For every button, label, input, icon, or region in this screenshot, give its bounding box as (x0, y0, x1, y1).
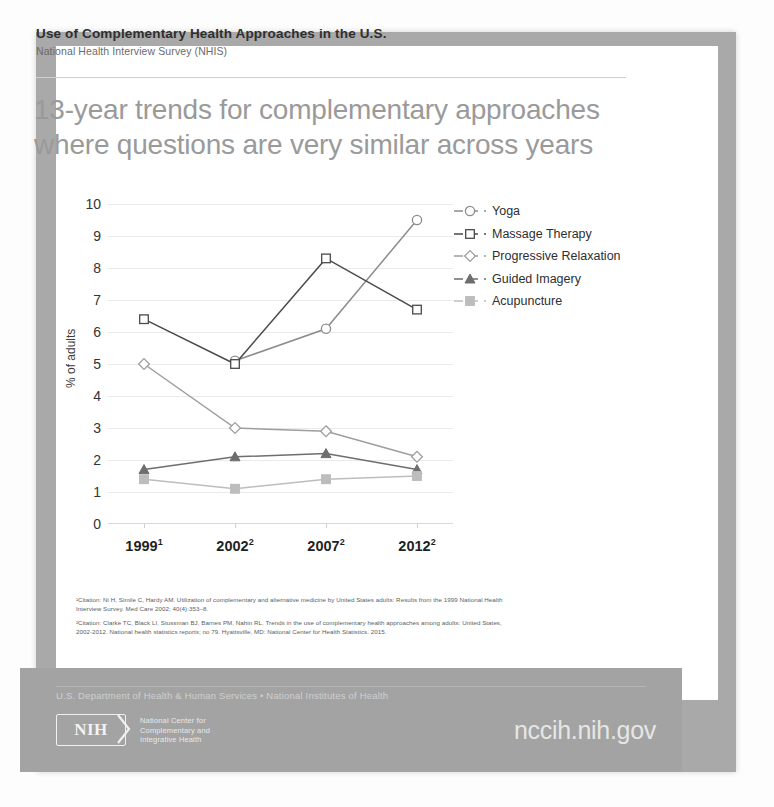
series-layer (108, 204, 453, 524)
footnote-1: ¹Citation: Ni H, Simile C, Hardy AM. Uti… (76, 596, 516, 613)
footer-divider (56, 686, 646, 687)
data-point-marker (231, 485, 240, 494)
legend-symbol-icon (452, 204, 492, 218)
chart-legend: YogaMassage TherapyProgressive Relaxatio… (452, 200, 662, 313)
data-point-marker (413, 305, 422, 314)
y-axis-tick-label: 7 (93, 293, 101, 307)
y-axis-tick-label: 4 (93, 389, 101, 403)
x-axis-tickmark (144, 524, 145, 528)
y-axis-tick-label: 5 (93, 357, 101, 371)
y-axis-tick-label: 1 (93, 485, 101, 499)
series-line (144, 364, 417, 457)
header-divider (36, 77, 626, 78)
legend-symbol-icon (452, 272, 492, 286)
y-axis-tick-label: 6 (93, 325, 101, 339)
y-axis-tick-label: 8 (93, 261, 101, 275)
legend-item[interactable]: Guided Imagery (452, 268, 662, 291)
data-point-marker (139, 359, 150, 370)
legend-item[interactable]: Massage Therapy (452, 223, 662, 246)
x-axis-tickmark (235, 524, 236, 528)
data-point-marker (465, 251, 476, 262)
header-subtitle: National Health Interview Survey (NHIS) (36, 45, 636, 57)
series-line (144, 454, 417, 470)
data-point-marker (140, 475, 149, 484)
page-title: 13-year trends for complementary approac… (34, 92, 634, 162)
y-axis-tick-label: 9 (93, 229, 101, 243)
data-point-marker (413, 472, 422, 481)
footnote-2: ²Citation: Clarke TC, Black LI, Stussman… (76, 619, 516, 636)
data-point-marker (322, 475, 331, 484)
data-point-marker (321, 324, 330, 333)
legend-label: Guided Imagery (492, 272, 581, 286)
legend-symbol-icon (452, 227, 492, 241)
footer-department: U.S. Department of Health & Human Servic… (56, 690, 388, 701)
y-axis-tick-label: 2 (93, 453, 101, 467)
legend-label: Acupuncture (492, 294, 562, 308)
y-axis-label: % of adults (64, 329, 78, 388)
x-axis-tickmark (326, 524, 327, 528)
x-axis-tickmark (417, 524, 418, 528)
slide-photo: Use of Complementary Health Approaches i… (0, 0, 774, 807)
footer-url: nccih.nih.gov (514, 716, 656, 745)
data-point-marker (230, 423, 241, 434)
data-point-marker (412, 451, 423, 462)
data-point-marker (466, 297, 475, 306)
header-title: Use of Complementary Health Approaches i… (36, 26, 636, 41)
x-axis-tick-label: 20072 (307, 537, 344, 554)
data-point-marker (465, 207, 474, 216)
series-line (235, 220, 417, 361)
series-line (144, 258, 417, 364)
nih-logo-text: NIH (74, 720, 108, 740)
y-axis-tick-label: 10 (85, 197, 101, 211)
chevron-right-icon (116, 714, 132, 744)
legend-label: Progressive Relaxation (492, 249, 621, 263)
data-point-marker (321, 426, 332, 437)
data-point-marker (140, 315, 149, 324)
plot-area: 01234567891019991200222007220122 (108, 204, 453, 524)
series-line (144, 476, 417, 489)
footer-center-name-line: Integrative Health (140, 735, 210, 745)
x-axis-tick-label: 20122 (398, 537, 435, 554)
footer-center-name-line: Complementary and (140, 726, 210, 736)
slide-footer: U.S. Department of Health & Human Servic… (20, 668, 682, 772)
legend-item[interactable]: Acupuncture (452, 290, 662, 313)
footnotes: ¹Citation: Ni H, Simile C, Hardy AM. Uti… (76, 596, 516, 642)
legend-symbol-icon (452, 249, 492, 263)
x-axis-tick-label: 20022 (216, 537, 253, 554)
legend-item[interactable]: Yoga (452, 200, 662, 223)
data-point-marker (466, 229, 475, 238)
legend-label: Massage Therapy (492, 227, 592, 241)
legend-label: Yoga (492, 204, 520, 218)
y-axis-tick-label: 0 (93, 517, 101, 531)
footer-center-name-line: National Center for (140, 716, 210, 726)
slide-header: Use of Complementary Health Approaches i… (36, 26, 636, 57)
data-point-marker (231, 360, 240, 369)
legend-symbol-icon (452, 294, 492, 308)
data-point-marker (412, 215, 421, 224)
x-axis-tick-label: 19991 (125, 537, 162, 554)
y-axis-tick-label: 3 (93, 421, 101, 435)
data-point-marker (322, 254, 331, 263)
legend-item[interactable]: Progressive Relaxation (452, 245, 662, 268)
footer-center-name: National Center forComplementary andInte… (140, 716, 210, 745)
